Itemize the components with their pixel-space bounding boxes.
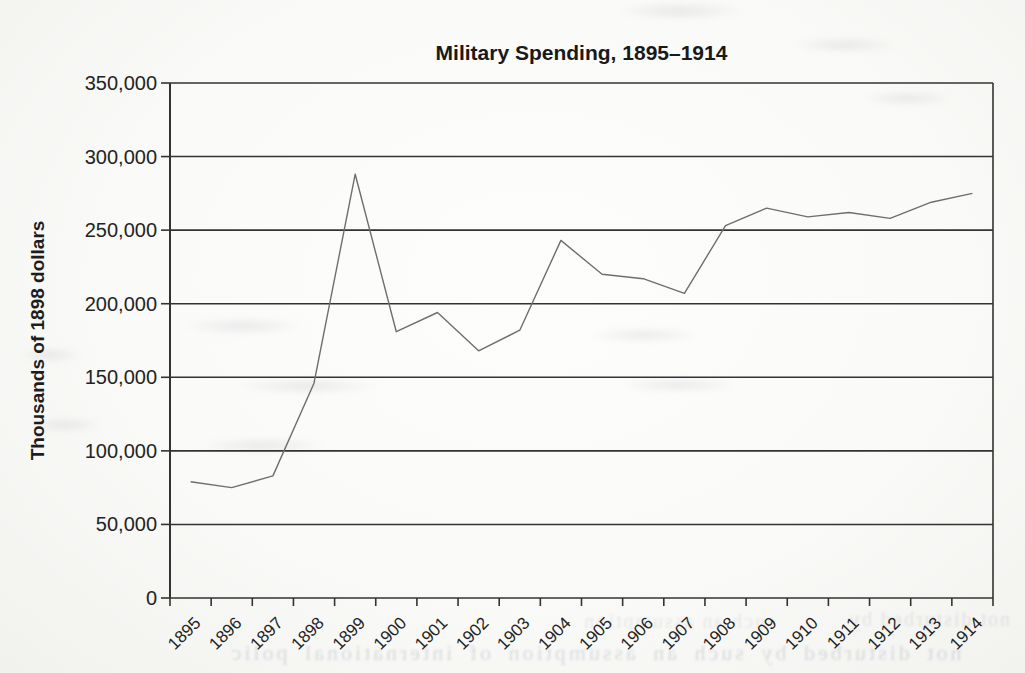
- x-category-label: 1911: [824, 613, 863, 652]
- y-tick-label: 0: [146, 587, 157, 609]
- x-category-label: 1914: [946, 613, 986, 653]
- scanned-book-page: not disturbed by such an assumption of i…: [0, 0, 1025, 673]
- x-category-label: 1902: [452, 613, 492, 653]
- x-category-label: 1903: [493, 613, 533, 653]
- military-spending-line-chart: 050,000100,000150,000200,000250,000300,0…: [0, 0, 1025, 673]
- y-tick-label: 250,000: [85, 219, 157, 241]
- x-category-label: 1907: [658, 613, 698, 653]
- y-tick-label: 350,000: [85, 72, 157, 94]
- x-category-label: 1910: [781, 613, 821, 653]
- x-category-label: 1905: [576, 613, 616, 653]
- x-category-label: 1895: [164, 613, 204, 653]
- x-category-label: 1908: [699, 613, 739, 653]
- y-tick-label: 300,000: [85, 146, 157, 168]
- x-category-label: 1913: [905, 613, 945, 653]
- x-category-label: 1901: [411, 613, 451, 653]
- x-category-label: 1906: [617, 613, 657, 653]
- x-category-label: 1912: [864, 613, 904, 653]
- y-tick-label: 200,000: [85, 293, 157, 315]
- x-category-label: 1909: [740, 613, 780, 653]
- x-category-label: 1897: [247, 613, 287, 653]
- x-category-label: 1899: [329, 613, 369, 653]
- chart-title: Military Spending, 1895–1914: [436, 41, 728, 64]
- x-category-label: 1896: [205, 613, 245, 653]
- x-category-label: 1900: [370, 613, 410, 653]
- y-axis-title: Thousands of 1898 dollars: [27, 221, 48, 461]
- y-tick-label: 100,000: [85, 440, 157, 462]
- x-category-label: 1904: [535, 613, 575, 653]
- x-category-label: 1898: [288, 613, 328, 653]
- y-tick-label: 50,000: [96, 513, 157, 535]
- spending-data-line: [191, 174, 973, 487]
- y-tick-label: 150,000: [85, 366, 157, 388]
